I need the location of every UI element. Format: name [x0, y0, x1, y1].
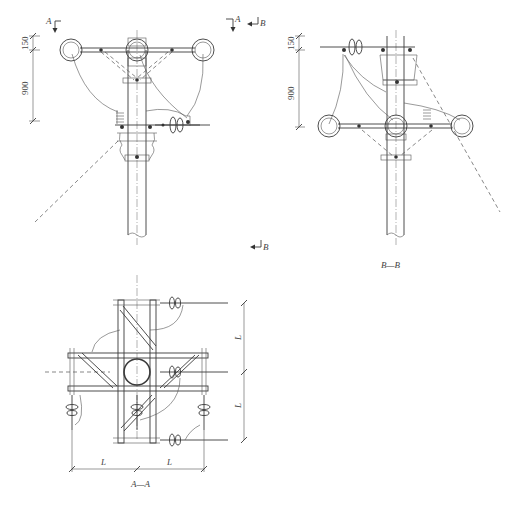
- svg-text:L: L: [100, 457, 106, 467]
- svg-text:A: A: [234, 14, 241, 24]
- plan-view: L L L L A—A: [45, 275, 247, 489]
- view-title-b-b: B—B: [381, 260, 401, 270]
- plan-insulators: [66, 297, 228, 446]
- view-title-a-a: A—A: [130, 479, 151, 489]
- svg-text:L: L: [233, 335, 243, 341]
- horizontal-channels: [68, 348, 208, 395]
- svg-text:150: 150: [286, 36, 296, 50]
- section-mark-a-right: A: [226, 14, 241, 32]
- drawing-canvas: A A B B 150 900: [0, 0, 524, 505]
- section-mark-b-bottom: B: [250, 240, 269, 252]
- section-mark-b-top: B: [247, 17, 266, 28]
- svg-text:A: A: [45, 16, 52, 26]
- front-view: A A B B 150 900: [20, 14, 269, 252]
- front-dimension: 150 900: [20, 33, 40, 124]
- svg-text:900: 900: [20, 81, 30, 95]
- pole-front: [128, 30, 146, 245]
- svg-text:L: L: [233, 403, 243, 409]
- svg-text:L: L: [166, 457, 172, 467]
- svg-text:B: B: [260, 18, 266, 28]
- svg-text:150: 150: [20, 36, 30, 50]
- section-mark-a-left: A: [45, 16, 61, 33]
- svg-text:B: B: [263, 242, 269, 252]
- vertical-channels: [113, 300, 160, 443]
- crossarm-side: [318, 103, 473, 160]
- svg-text:900: 900: [286, 86, 296, 100]
- equipment-front: [35, 54, 210, 222]
- side-view: 150 900: [286, 30, 500, 270]
- side-dimension: 150 900: [286, 33, 305, 130]
- pole-side: [387, 30, 404, 245]
